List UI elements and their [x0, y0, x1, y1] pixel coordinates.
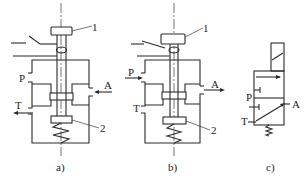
arrow-head-icon [220, 88, 225, 92]
arrow-head-icon [276, 75, 281, 79]
callout-1: 1 [203, 22, 209, 34]
arrow-head-icon [13, 111, 18, 115]
piston-2 [163, 117, 186, 124]
port-a-label: A [211, 78, 219, 90]
stem-coil-icon [57, 47, 67, 53]
actuator-diagonal [272, 53, 283, 60]
port-p-label: P [246, 91, 252, 103]
arrow-head-icon [138, 76, 143, 80]
push-button-cap [51, 27, 72, 35]
spool-land [162, 92, 186, 99]
callout-1: 1 [92, 21, 98, 33]
chamber-left-bottom [32, 100, 51, 106]
piston-2 [51, 116, 72, 123]
callout-2: 2 [211, 124, 217, 136]
port-a-label: A [292, 98, 300, 110]
return-spring-icon [266, 125, 272, 136]
callout-leader-2 [72, 120, 99, 128]
caption-c: c) [266, 161, 275, 174]
caption-a: a) [56, 161, 65, 174]
panel-c-valve-symbol: P A T c) [241, 43, 300, 174]
callout-leader-2 [186, 121, 210, 130]
panel-b-valve-section: 1 2 P A T b) [125, 3, 225, 174]
chamber-left-bottom [145, 99, 163, 105]
port-t-label: T [241, 115, 248, 127]
chamber-left-top [32, 84, 51, 93]
port-t-label: T [133, 102, 140, 114]
chamber-right-bottom [72, 100, 89, 105]
port-p-label: P [19, 72, 25, 84]
flow-path-t-a [256, 104, 284, 121]
callout-2: 2 [100, 122, 106, 134]
chamber-right-top [185, 84, 200, 92]
port-p-lower [28, 82, 32, 108]
arrow-head-icon [94, 90, 99, 94]
lever-diagonal [29, 36, 40, 44]
port-p-label: P [128, 66, 134, 78]
push-button-cap [161, 34, 185, 44]
port-a-label: A [104, 79, 112, 91]
port-t-label: T [15, 99, 22, 111]
panel-a-valve-section: 1 2 P A T a) [11, 3, 112, 174]
callout-leader-1 [72, 26, 92, 31]
chamber-left-top [145, 84, 163, 92]
caption-b: b) [168, 161, 178, 174]
valve-diagram-figure: 1 2 P A T a) 1 [0, 0, 307, 187]
chamber-right-top [72, 84, 89, 93]
chamber-right-bottom [185, 99, 200, 104]
spool-land [50, 93, 73, 100]
body-top [145, 60, 200, 86]
callout-leader-1 [185, 28, 203, 37]
port-p-lower [141, 82, 145, 106]
